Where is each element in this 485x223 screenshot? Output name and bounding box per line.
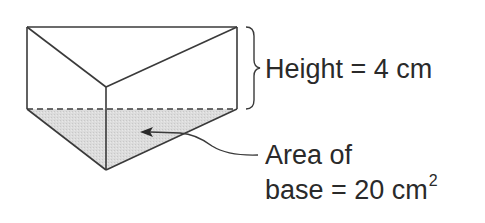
area-exponent: 2 — [429, 172, 438, 189]
height-label: Height = 4 cm — [265, 54, 432, 84]
prism-diagram: Height = 4 cm Area of base = 20 cm 2 — [0, 0, 485, 223]
area-label-line1: Area of — [265, 140, 353, 170]
height-brace — [246, 27, 260, 109]
area-label-line2: base = 20 cm — [265, 175, 428, 205]
shaded-base — [27, 109, 237, 170]
